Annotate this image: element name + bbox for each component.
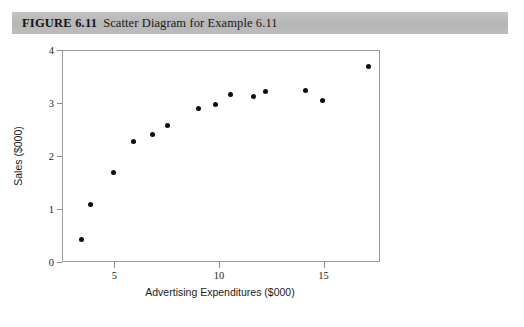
x-axis-tick-label: 15 — [318, 270, 329, 281]
x-axis-label: Advertising Expenditures ($000) — [0, 286, 440, 298]
scatter-point — [150, 132, 155, 137]
figure-page: FIGURE 6.11 Scatter Diagram for Example … — [0, 0, 524, 327]
scatter-point — [88, 202, 93, 207]
figure-number-label: FIGURE 6.11 — [22, 16, 97, 31]
scatter-point — [263, 89, 268, 94]
scatter-point — [196, 106, 201, 111]
y-axis-tick-label: 0 — [34, 257, 54, 268]
scatter-chart: 01234 51015 Advertising Expenditures ($0… — [0, 36, 524, 327]
x-axis-tick — [114, 262, 115, 268]
y-axis-tick-label: 3 — [34, 98, 54, 109]
scatter-point — [165, 123, 170, 128]
x-axis-tick-label: 5 — [112, 270, 117, 281]
x-axis-tick — [219, 262, 220, 268]
scatter-point — [366, 64, 371, 69]
scatter-point — [213, 102, 218, 107]
y-axis-tick — [57, 262, 62, 263]
figure-caption-bar: FIGURE 6.11 Scatter Diagram for Example … — [12, 12, 508, 34]
x-axis-tick-label: 10 — [214, 270, 225, 281]
y-axis-tick-label: 1 — [34, 204, 54, 215]
scatter-point — [131, 139, 136, 144]
y-axis-tick-label: 2 — [34, 151, 54, 162]
scatter-point — [228, 92, 233, 97]
y-axis-tick-label: 4 — [34, 45, 54, 56]
figure-caption: FIGURE 6.11 Scatter Diagram for Example … — [12, 16, 278, 31]
scatter-point — [320, 98, 325, 103]
x-axis-tick — [324, 262, 325, 268]
scatter-point — [303, 88, 308, 93]
y-axis-label: Sales ($000) — [12, 126, 24, 186]
plot-area — [62, 50, 380, 262]
scatter-point — [79, 237, 84, 242]
figure-title-text: Scatter Diagram for Example 6.11 — [103, 16, 278, 31]
scatter-point — [111, 170, 116, 175]
scatter-point — [251, 94, 256, 99]
